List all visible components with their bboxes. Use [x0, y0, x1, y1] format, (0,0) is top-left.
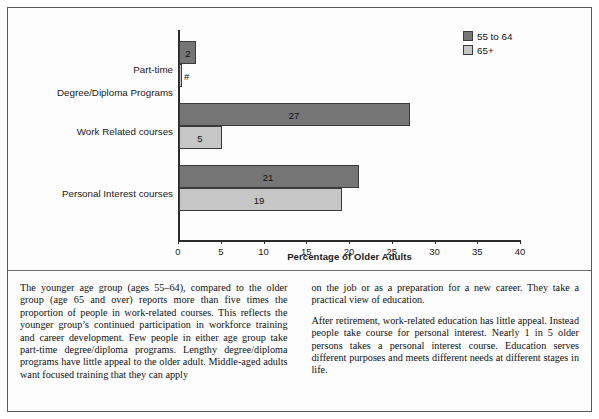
body-column-right: on the job or as a preparation for a new…	[300, 282, 580, 412]
bar-part-time-65-plus	[179, 64, 182, 87]
body-paragraph-right-2: After retirement, work-related education…	[312, 315, 580, 377]
bar-value-personal-interest-65-plus: 19	[254, 194, 265, 205]
category-label-personal-interest: Personal Interest courses	[0, 176, 173, 199]
bar-value-work-related-55-to-64: 27	[289, 109, 300, 120]
bar-value-personal-interest-55-to-64: 21	[263, 171, 274, 182]
bar-chart: 55 to 64 65+ 0	[8, 8, 593, 270]
body-column-left: The younger age group (ages 55–64), comp…	[20, 282, 300, 412]
bar-value-work-related-65-plus: 5	[197, 132, 202, 143]
x-tick-15	[306, 240, 307, 244]
bar-value-part-time-65-plus: #	[184, 70, 189, 81]
x-tick-0	[178, 240, 179, 244]
x-axis-title: Percentage of Older Adults	[178, 251, 521, 262]
body-paragraph-right-1: on the job or as a preparation for a new…	[312, 282, 580, 307]
category-label-work-related-text: Work Related courses	[77, 126, 173, 137]
category-label-work-related: Work Related courses	[0, 114, 173, 137]
x-tick-25	[392, 240, 393, 244]
category-label-part-time-degree: Part-time Degree/Diploma Programs	[0, 52, 173, 98]
category-label-line2: Degree/Diploma Programs	[57, 87, 173, 98]
plot-area: 0 5 10 15 20 25 30 35 40 Part-time Degre…	[178, 30, 520, 240]
category-label-personal-interest-text: Personal Interest courses	[62, 188, 173, 199]
x-tick-20	[349, 240, 350, 244]
body-text: The younger age group (ages 55–64), comp…	[8, 274, 591, 412]
bar-value-part-time-55-to-64: 2	[185, 47, 190, 58]
x-tick-10	[264, 240, 265, 244]
section-divider	[8, 270, 591, 271]
x-tick-40	[520, 240, 521, 244]
category-label-line1: Part-time	[133, 64, 173, 75]
x-tick-5	[221, 240, 222, 244]
page-root: 55 to 64 65+ 0	[0, 0, 599, 419]
figure-frame: 55 to 64 65+ 0	[7, 7, 592, 412]
x-tick-30	[435, 240, 436, 244]
body-paragraph-left-1: The younger age group (ages 55–64), comp…	[20, 282, 288, 381]
x-tick-35	[477, 240, 478, 244]
